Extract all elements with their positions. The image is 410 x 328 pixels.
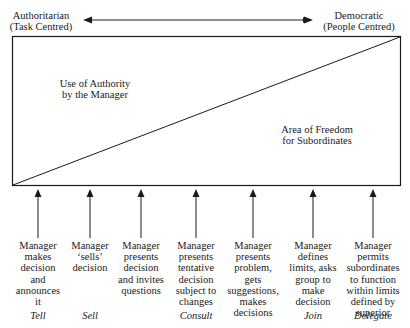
behaviour-description: Managerpermitssubordinatesto functionwit… bbox=[343, 240, 403, 318]
democratic-label: Democratic (People Centred) bbox=[314, 10, 404, 32]
up-arrow-icon bbox=[193, 189, 200, 197]
authoritarian-label: Authoritarian (Task Centred) bbox=[6, 10, 76, 32]
behaviour-description: Managerpresentstentativedecisionsubject … bbox=[166, 240, 226, 307]
up-arrow-icon bbox=[35, 189, 42, 197]
leadership-style-label: Tell bbox=[8, 310, 68, 321]
behaviour-description: Managerdefineslimits, asksgroup tomakede… bbox=[283, 240, 343, 307]
up-arrow-icon bbox=[310, 189, 317, 197]
up-arrow-icon bbox=[138, 189, 145, 197]
up-arrow-icon bbox=[87, 189, 94, 197]
left-arrowhead-icon bbox=[83, 17, 92, 24]
use-of-authority-label: Use of Authority by the Manager bbox=[50, 78, 140, 100]
up-arrow-icon bbox=[370, 189, 377, 197]
right-arrowhead-icon bbox=[304, 17, 313, 24]
behaviour-description: Managerpresentsproblem,getssuggestions,m… bbox=[223, 240, 283, 318]
behaviour-arrows bbox=[35, 189, 377, 238]
behaviour-description: Managermakesdecisionandannouncesit bbox=[8, 240, 68, 307]
authority-diagonal bbox=[13, 37, 400, 185]
leadership-style-label: Delegate bbox=[343, 310, 403, 321]
behaviour-description: Managerpresentsdecisionand invitesquesti… bbox=[111, 240, 171, 296]
leadership-style-label: Join bbox=[283, 310, 343, 321]
leadership-style-label: Sell bbox=[60, 310, 120, 321]
leadership-style-label: Consult bbox=[166, 310, 226, 321]
up-arrow-icon bbox=[250, 189, 257, 197]
area-of-freedom-label: Area of Freedom for Subordinates bbox=[272, 124, 362, 146]
